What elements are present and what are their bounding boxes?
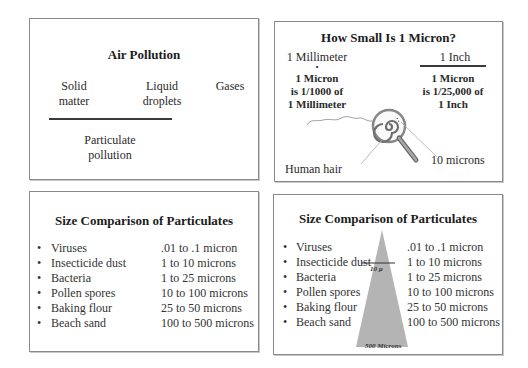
bullet-icon: • [283, 285, 287, 300]
list-item: • Insecticide dust 1 to 10 microns [37, 256, 257, 271]
particulate-list: • Viruses .01 to .1 micron • Insecticide… [37, 241, 257, 331]
panel-air-pollution: Air Pollution Solid matter Liquid drople… [29, 18, 259, 180]
particulate-list: • Viruses .01 to .1 micron • Insecticide… [283, 240, 503, 330]
bullet-icon: • [37, 316, 41, 331]
category-gases: Gases [200, 79, 260, 94]
bullet-icon: • [283, 270, 287, 285]
triangle-base-label: 500 Microns [365, 342, 401, 350]
panel-micron-scale: How Small Is 1 Micron? 1 Millimeter • 1 … [274, 21, 503, 182]
list-item: • Bacteria 1 to 25 microns [37, 271, 257, 286]
hair-icon [307, 117, 373, 125]
bullet-icon: • [283, 255, 287, 270]
list-item: • Viruses .01 to .1 micron [283, 240, 503, 255]
bullet-icon: • [37, 271, 41, 286]
grouping-line [49, 118, 172, 120]
category-liquid-droplets: Liquid droplets [122, 79, 202, 109]
ten-microns-label: 10 microns [431, 153, 485, 168]
list-item: • Insecticide dust 1 to 10 microns [283, 255, 503, 270]
list-item: • Pollen spores 10 to 100 microns [283, 285, 503, 300]
list-item: • Pollen spores 10 to 100 microns [37, 286, 257, 301]
bullet-icon: • [37, 286, 41, 301]
bullet-icon: • [37, 301, 41, 316]
bullet-icon: • [283, 300, 287, 315]
list-item: • Beach sand 100 to 500 microns [283, 315, 503, 330]
panel-title: Size Comparison of Particulates [30, 213, 258, 229]
list-item: • Baking flour 25 to 50 microns [283, 300, 503, 315]
panel-size-comparison-list: Size Comparison of Particulates • Viruse… [29, 191, 259, 352]
list-item: • Baking flour 25 to 50 microns [37, 301, 257, 316]
panel-title: Size Comparison of Particulates [274, 211, 502, 227]
bullet-icon: • [37, 256, 41, 271]
list-item: • Beach sand 100 to 500 microns [37, 316, 257, 331]
bullet-icon: • [283, 240, 287, 255]
bullet-icon: • [283, 315, 287, 330]
panel-size-comparison-triangle: 10 µ 500 Microns Size Comparison of Part… [273, 194, 503, 355]
list-item: • Viruses .01 to .1 micron [37, 241, 257, 256]
panel-title: Air Pollution [30, 47, 258, 63]
bullet-icon: • [37, 241, 41, 256]
list-item: • Bacteria 1 to 25 microns [283, 270, 503, 285]
category-solid-matter: Solid matter [44, 79, 104, 109]
group-particulate-pollution: Particulate pollution [70, 133, 150, 163]
human-hair-label: Human hair [285, 162, 342, 177]
